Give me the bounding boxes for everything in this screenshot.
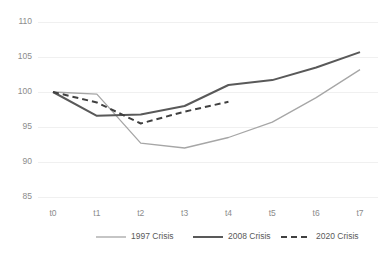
x-tick-label-t3: t3: [181, 208, 188, 218]
line-chart: 110105100959085 t0t1t2t3t4t5t6t7 1997 Cr…: [0, 0, 390, 257]
x-axis-tick-labels: t0t1t2t3t4t5t6t7: [49, 208, 363, 218]
x-tick-label-t0: t0: [49, 208, 56, 218]
y-tick-label-95: 95: [23, 121, 33, 131]
x-tick-label-t7: t7: [356, 208, 363, 218]
y-tick-label-105: 105: [18, 51, 32, 61]
series-group: [53, 52, 360, 148]
legend-label-2020-crisis: 2020 Crisis: [316, 231, 359, 241]
y-tick-label-110: 110: [18, 16, 32, 26]
x-tick-label-t1: t1: [93, 208, 100, 218]
legend-label-1997-crisis: 1997 Crisis: [131, 231, 174, 241]
gridlines-group: [38, 22, 378, 197]
y-tick-label-85: 85: [23, 191, 33, 201]
x-tick-label-t6: t6: [313, 208, 320, 218]
series-line-1997-crisis: [53, 70, 360, 148]
chart-plot-area: 110105100959085 t0t1t2t3t4t5t6t7 1997 Cr…: [0, 0, 390, 257]
y-tick-label-100: 100: [18, 86, 32, 96]
x-tick-label-t5: t5: [269, 208, 276, 218]
x-tick-label-t2: t2: [137, 208, 144, 218]
chart-legend: 1997 Crisis2008 Crisis2020 Crisis: [96, 231, 359, 241]
legend-label-2008-crisis: 2008 Crisis: [228, 231, 271, 241]
y-axis-tick-labels: 110105100959085: [18, 16, 32, 201]
y-tick-label-90: 90: [23, 156, 33, 166]
x-tick-label-t4: t4: [225, 208, 232, 218]
